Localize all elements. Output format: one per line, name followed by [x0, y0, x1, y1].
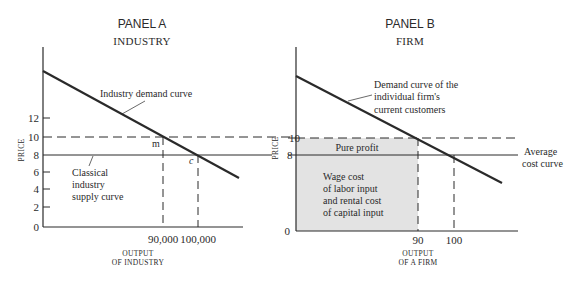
average-cost-label-2: cost curve — [522, 158, 563, 169]
panel-b-y-axis-label: PRICE — [271, 137, 280, 160]
panel-a-supply-leader — [89, 156, 93, 166]
point-m-label: m — [152, 138, 160, 149]
panel-b-title: PANEL B — [385, 17, 434, 31]
panel-b: PANEL B FIRM 10 8 0 PRICE Demand curve o… — [271, 17, 563, 267]
panel-a-subtitle: INDUSTRY — [113, 35, 170, 47]
x-tick-label: 100 — [446, 234, 463, 246]
cost-label-3: and rental cost — [323, 195, 382, 206]
panel-a-x-axis-label-2: OF INDUSTRY — [112, 258, 165, 267]
panel-a-x-axis-label-1: OUTPUT — [122, 249, 154, 258]
panel-a-y-ticks: 12 10 8 6 4 2 0 — [28, 112, 50, 233]
x-tick-label: 90 — [413, 234, 425, 246]
panel-a-supply-label-3: supply curve — [72, 191, 124, 202]
panel-b-demand-leader — [348, 95, 372, 101]
panel-a: PANEL A INDUSTRY 12 10 8 6 4 2 0 PRICE — [17, 17, 290, 267]
cost-label-2: of labor input — [323, 183, 378, 194]
panel-b-subtitle: FIRM — [396, 35, 424, 47]
panel-b-demand-label-1: Demand curve of the — [374, 79, 459, 90]
y-tick-label: 4 — [34, 183, 40, 195]
panel-a-demand-leader — [122, 101, 145, 114]
x-tick-label: 90,000 — [148, 233, 179, 245]
average-cost-label-1: Average — [524, 146, 558, 157]
cost-label-1: Wage cost — [323, 171, 364, 182]
panel-a-demand-label: Industry demand curve — [100, 88, 193, 99]
pure-profit-label: Pure profit — [335, 142, 378, 153]
panel-b-demand-label-2: individual firm's — [374, 91, 440, 102]
y-tick-label: 10 — [28, 131, 40, 143]
panel-a-y-axis-label: PRICE — [17, 139, 26, 162]
y-tick-label: 0 — [285, 225, 291, 237]
y-tick-label: 8 — [287, 149, 293, 161]
panel-a-supply-label-1: Classical — [72, 167, 108, 178]
y-tick-label: 8 — [34, 149, 40, 161]
economics-figure: PANEL A INDUSTRY 12 10 8 6 4 2 0 PRICE — [0, 0, 588, 282]
panel-b-demand-label-3: current customers — [374, 104, 445, 115]
panel-b-x-axis-label-2: OF A FIRM — [399, 258, 438, 267]
panel-b-x-axis-label-1: OUTPUT — [402, 249, 434, 258]
y-tick-label: 0 — [34, 221, 40, 233]
panel-a-title: PANEL A — [118, 17, 167, 31]
panel-a-supply-label-2: industry — [72, 179, 105, 190]
x-tick-label: 100,000 — [180, 233, 216, 245]
y-tick-label: 6 — [34, 166, 40, 178]
y-tick-label: 12 — [28, 112, 39, 124]
point-c-label: c — [189, 155, 194, 166]
cost-label-4: of capital input — [323, 207, 384, 218]
y-tick-label: 2 — [34, 201, 40, 213]
